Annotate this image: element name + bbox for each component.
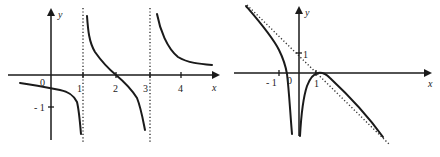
- left-x-tick-label: 2: [113, 83, 118, 94]
- figure: y x 0 1 2 3 4 - 1 y x 0 - 1 1 1: [0, 0, 440, 157]
- right-x-tick-label: - 1: [266, 77, 277, 88]
- left-graph: y x 0 1 2 3 4 - 1: [8, 8, 218, 142]
- left-curve-branch-3: [157, 14, 212, 65]
- right-y-label: y: [304, 7, 310, 18]
- right-curve-right-branch: [300, 73, 383, 137]
- right-y-tick-label: 1: [303, 49, 308, 60]
- right-origin-label: 0: [287, 75, 292, 86]
- right-x-label: x: [427, 78, 433, 89]
- left-x-tick-label: 4: [178, 83, 183, 94]
- right-graph: y x 0 - 1 1 1: [234, 5, 433, 144]
- right-x-tick-label: 1: [314, 78, 319, 89]
- left-y-tick-label: - 1: [34, 102, 45, 113]
- left-origin-label: 0: [40, 77, 45, 88]
- left-x-tick-label: 1: [77, 83, 82, 94]
- left-y-label: y: [57, 9, 63, 20]
- right-curve-left-branch: [246, 6, 292, 134]
- right-slant-asymptote: [247, 5, 389, 144]
- left-x-tick-label: 3: [143, 83, 148, 94]
- left-x-label: x: [211, 82, 217, 93]
